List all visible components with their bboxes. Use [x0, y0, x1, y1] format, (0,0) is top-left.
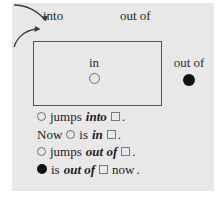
emphasised-word: out of: [86, 143, 117, 161]
emphasised-word: out of: [64, 161, 95, 179]
inside-label: in: [74, 55, 114, 70]
period-glyph: .: [118, 126, 121, 144]
filled-circle-glyph: [37, 164, 47, 174]
into-arrow: [12, 3, 58, 27]
open-square-glyph: [107, 130, 116, 139]
period-glyph: .: [136, 161, 139, 179]
sentence-word: is: [79, 126, 88, 144]
period-glyph: .: [132, 143, 135, 161]
emphasised-word: in: [92, 126, 103, 144]
open-circle-glyph: [37, 112, 46, 121]
inside-marker-group: in: [74, 55, 114, 84]
open-square-glyph: [111, 112, 120, 121]
open-circle-glyph: [66, 130, 75, 139]
sentence-line: Nowisin.: [37, 126, 209, 144]
sentence-line: isout ofnow.: [37, 161, 209, 179]
sentence-list: jumpsinto.Nowisin.jumpsout of.isout ofno…: [37, 108, 209, 178]
sentence-word: jumps: [50, 143, 82, 161]
sentence-line: jumpsout of.: [37, 143, 209, 161]
figure-panel: into out of in out of jumpsinto.Nowisin.…: [12, 3, 214, 191]
into-arrow-icon: [12, 3, 58, 27]
filled-circle-marker: [183, 74, 195, 86]
open-square-glyph: [121, 147, 130, 156]
outside-marker-group: out of: [166, 55, 212, 86]
sentence-word: now: [112, 161, 134, 179]
sentence-word: Now: [37, 126, 62, 144]
open-square-glyph: [99, 165, 108, 174]
emphasised-word: into: [86, 108, 107, 126]
open-circle-marker: [89, 73, 100, 84]
open-circle-glyph: [37, 147, 46, 156]
sentence-word: is: [51, 161, 60, 179]
period-glyph: .: [122, 108, 125, 126]
out-of-annotation-label: out of: [120, 9, 151, 23]
sentence-line: jumpsinto.: [37, 108, 209, 126]
sentence-word: jumps: [50, 108, 82, 126]
outside-label: out of: [166, 55, 212, 70]
